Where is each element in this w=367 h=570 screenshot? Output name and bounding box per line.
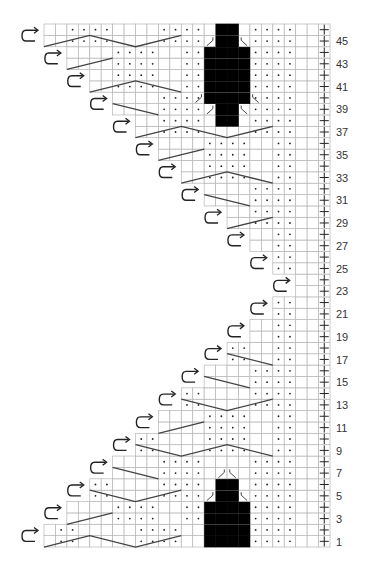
- stitch-cell: [296, 388, 307, 399]
- stitch-cell: [307, 376, 318, 387]
- purl-dot-icon: [278, 438, 280, 440]
- stitch-cell: [181, 411, 192, 422]
- stitch-cell: [296, 354, 307, 365]
- stitch-cell: [204, 365, 215, 376]
- purl-dot-icon: [232, 154, 234, 156]
- purl-dot-icon: [289, 142, 291, 144]
- purl-dot-icon: [140, 74, 142, 76]
- chart-row-29: [227, 217, 330, 228]
- purl-dot-icon: [289, 359, 291, 361]
- purl-dot-icon: [209, 165, 211, 167]
- chart-row-11: [158, 422, 330, 433]
- chart-row-19: [250, 331, 330, 342]
- stitch-cell: [55, 24, 66, 35]
- stitch-cell: [296, 479, 307, 490]
- purl-dot-icon: [243, 165, 245, 167]
- no-stitch-cell: [227, 501, 239, 513]
- purl-dot-icon: [232, 438, 234, 440]
- stitch-cell: [181, 138, 192, 149]
- purl-dot-icon: [289, 415, 291, 417]
- stitch-cell: [296, 490, 307, 501]
- purl-dot-icon: [243, 347, 245, 349]
- purl-dot-icon: [266, 40, 268, 42]
- purl-dot-icon: [220, 165, 222, 167]
- purl-dot-icon: [289, 108, 291, 110]
- row-number-label: 33: [336, 172, 348, 184]
- purl-dot-icon: [117, 52, 119, 54]
- stitch-cell: [158, 138, 169, 149]
- stitch-cell: [296, 47, 307, 58]
- purl-dot-icon: [266, 188, 268, 190]
- stitch-cell: [296, 138, 307, 149]
- turn-arrow-icon: [45, 505, 61, 519]
- no-stitch-cell: [216, 501, 228, 513]
- purl-dot-icon: [198, 108, 200, 110]
- arrow-body: [182, 189, 197, 200]
- chart-row-8: [113, 456, 330, 467]
- stitch-cell: [307, 536, 318, 547]
- no-stitch-cell: [216, 58, 228, 70]
- purl-dot-icon: [266, 518, 268, 520]
- turn-arrow-icon: [159, 164, 175, 178]
- purl-dot-icon: [95, 484, 97, 486]
- stitch-cell: [307, 513, 318, 524]
- no-stitch-cell: [204, 524, 216, 536]
- purl-dot-icon: [220, 142, 222, 144]
- chart-row-42: [90, 69, 330, 81]
- purl-dot-icon: [289, 245, 291, 247]
- row-number-label: 43: [336, 58, 348, 70]
- turn-arrow-icon: [136, 141, 152, 155]
- purl-dot-icon: [140, 63, 142, 65]
- chart-row-20: [250, 320, 330, 331]
- no-stitch-cell: [227, 490, 239, 502]
- purl-dot-icon: [175, 120, 177, 122]
- stitch-cell: [227, 388, 238, 399]
- purl-dot-icon: [129, 63, 131, 65]
- purl-dot-icon: [117, 74, 119, 76]
- purl-dot-icon: [255, 63, 257, 65]
- stitch-cell: [296, 160, 307, 171]
- purl-dot-icon: [175, 131, 177, 133]
- purl-dot-icon: [232, 415, 234, 417]
- purl-dot-icon: [266, 199, 268, 201]
- purl-dot-icon: [209, 427, 211, 429]
- purl-dot-icon: [243, 154, 245, 156]
- purl-dot-icon: [129, 52, 131, 54]
- stitch-cell: [238, 24, 249, 35]
- purl-dot-icon: [278, 461, 280, 463]
- stitch-cell: [124, 92, 135, 103]
- stitch-cell: [307, 92, 318, 103]
- stitch-cell: [307, 240, 318, 251]
- purl-dot-icon: [278, 142, 280, 144]
- stitch-cell: [158, 513, 169, 524]
- no-stitch-cell: [216, 490, 228, 502]
- stitch-cell: [238, 115, 249, 126]
- row-number-label: 31: [336, 194, 348, 206]
- stitch-cell: [307, 502, 318, 513]
- turn-arrow-icon: [91, 459, 107, 473]
- stitch-cell: [90, 69, 101, 80]
- purl-dot-icon: [140, 438, 142, 440]
- purl-dot-icon: [186, 131, 188, 133]
- purl-dot-icon: [152, 52, 154, 54]
- purl-dot-icon: [289, 324, 291, 326]
- purl-dot-icon: [140, 52, 142, 54]
- row-number-label: 25: [336, 263, 348, 275]
- purl-dot-icon: [232, 142, 234, 144]
- purl-dot-icon: [129, 506, 131, 508]
- stitch-cell: [307, 24, 318, 35]
- arrow-body: [91, 98, 106, 109]
- purl-dot-icon: [95, 40, 97, 42]
- chart-row-28: [250, 229, 330, 240]
- purl-dot-icon: [266, 63, 268, 65]
- purl-dot-icon: [255, 472, 257, 474]
- purl-dot-icon: [232, 177, 234, 179]
- stitch-cell: [193, 411, 204, 422]
- purl-dot-icon: [266, 381, 268, 383]
- purl-dot-icon: [278, 40, 280, 42]
- purl-dot-icon: [289, 199, 291, 201]
- stitch-cell: [261, 138, 272, 149]
- purl-dot-icon: [198, 29, 200, 31]
- row-number-label: 9: [336, 445, 342, 457]
- no-stitch-cell: [204, 513, 216, 525]
